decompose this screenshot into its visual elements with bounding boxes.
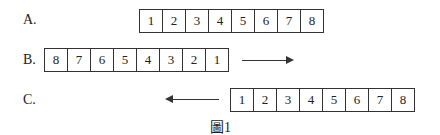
cell: 1 (206, 49, 228, 71)
cell: 5 (323, 89, 346, 111)
cell: 8 (392, 89, 414, 111)
option-b-sequence: 8 7 6 5 4 3 2 1 (44, 48, 229, 72)
cell: 1 (231, 89, 254, 111)
cell: 5 (232, 10, 255, 32)
cell: 6 (346, 89, 369, 111)
cell: 2 (163, 10, 186, 32)
arrow-left-icon (167, 99, 219, 100)
cell: 8 (301, 10, 323, 32)
figure-caption: 圖1 (210, 116, 231, 135)
arrow-right-icon (242, 60, 292, 61)
cell: 4 (209, 10, 232, 32)
cell: 2 (183, 49, 206, 71)
cell: 4 (300, 89, 323, 111)
cell: 7 (278, 10, 301, 32)
cell: 6 (255, 10, 278, 32)
cell: 2 (254, 89, 277, 111)
cell: 8 (45, 49, 68, 71)
cell: 4 (137, 49, 160, 71)
option-a-label: A. (23, 12, 37, 28)
option-c-sequence: 1 2 3 4 5 6 7 8 (230, 88, 415, 112)
cell: 5 (114, 49, 137, 71)
option-b-label: B. (23, 52, 36, 68)
cell: 3 (277, 89, 300, 111)
cell: 3 (186, 10, 209, 32)
option-c-label: C. (23, 92, 36, 108)
cell: 7 (68, 49, 91, 71)
cell: 3 (160, 49, 183, 71)
cell: 1 (140, 10, 163, 32)
option-a-sequence: 1 2 3 4 5 6 7 8 (139, 9, 324, 33)
cell: 7 (369, 89, 392, 111)
cell: 6 (91, 49, 114, 71)
